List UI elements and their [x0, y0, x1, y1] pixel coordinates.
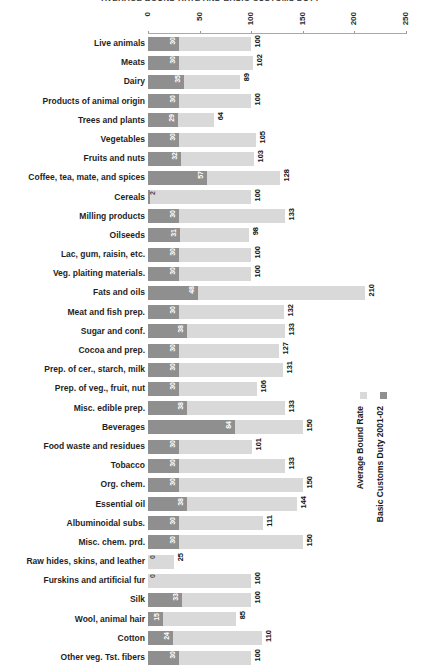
chart-row: Meat and fish prep.13230 [0, 303, 421, 322]
bar-group: 8935 [148, 72, 406, 91]
category-label: Albuminoidal subs. [67, 514, 145, 533]
value-label-basic-customs-duty: 30 [169, 95, 176, 103]
x-axis-tick-label: 0 [144, 12, 152, 16]
value-label-average-bound-rate: 131 [286, 361, 294, 374]
chart-row: Wool, animal hair8515 [0, 610, 421, 629]
legend-label: Basic Customs Duty 2001-02 [376, 406, 385, 522]
category-label: Fats and oils [93, 283, 145, 302]
category-label: Cocoa and prep. [78, 341, 145, 360]
value-label-basic-customs-duty: 30 [169, 37, 176, 45]
category-label: Furskins and artificial fur [43, 571, 145, 590]
value-label-basic-customs-duty: 38 [177, 498, 184, 506]
value-label-basic-customs-duty: 38 [177, 402, 184, 410]
bar-average-bound-rate [148, 574, 251, 588]
value-label-basic-customs-duty: 30 [169, 651, 176, 659]
value-label-average-bound-rate: 85 [239, 611, 247, 619]
value-label-basic-customs-duty: 48 [188, 286, 195, 294]
chart-row: Products of animal origin10030 [0, 92, 421, 111]
bar-group: 10030 [148, 92, 406, 111]
category-label: Tobacco [111, 456, 145, 475]
x-axis-tick-label: 150 [299, 12, 307, 25]
value-label-average-bound-rate: 150 [306, 476, 314, 489]
bar-group: 13130 [148, 360, 406, 379]
value-label-basic-customs-duty: 30 [169, 517, 176, 525]
value-label-basic-customs-duty: 0 [149, 555, 156, 559]
value-label-basic-customs-duty: 30 [169, 56, 176, 64]
bar-group: 10030 [148, 648, 406, 667]
value-label-average-bound-rate: 100 [254, 93, 262, 106]
category-label: Fruits and nuts [84, 149, 145, 168]
value-label-average-bound-rate: 133 [288, 208, 296, 221]
x-axis-tick-label: 50 [196, 12, 204, 21]
value-label-basic-customs-duty: 38 [177, 325, 184, 333]
value-label-basic-customs-duty: 31 [170, 229, 177, 237]
value-label-average-bound-rate: 100 [254, 649, 262, 662]
bar-group: 1002 [148, 188, 406, 207]
category-label: Misc. edible prep. [74, 399, 145, 418]
value-label-average-bound-rate: 106 [260, 380, 268, 393]
bar-group: 10530 [148, 130, 406, 149]
category-label: Silk [130, 590, 145, 609]
bar-group: 12730 [148, 341, 406, 360]
value-label-basic-customs-duty: 30 [169, 133, 176, 141]
category-label: Meat and fish prep. [68, 303, 145, 322]
value-label-basic-customs-duty: 29 [168, 114, 175, 122]
chart-row: Other veg. Tst. fibers10030 [0, 648, 421, 667]
bar-group: 10033 [148, 590, 406, 609]
value-label-average-bound-rate: 100 [254, 246, 262, 259]
chart-row: Lac, gum, raisin, etc.10030 [0, 245, 421, 264]
chart-row: Milling products13330 [0, 207, 421, 226]
value-label-basic-customs-duty: 32 [171, 152, 178, 160]
category-label: Oilseeds [110, 226, 145, 245]
bar-group: 10230 [148, 53, 406, 72]
bar-group: 13230 [148, 303, 406, 322]
chart-row: Fruits and nuts10332 [0, 149, 421, 168]
bar-average-bound-rate [148, 190, 251, 204]
chart-row: Sugar and conf.13338 [0, 322, 421, 341]
chart-row: Cereals1002 [0, 188, 421, 207]
value-label-average-bound-rate: 100 [254, 189, 262, 202]
category-label: Meats [121, 53, 145, 72]
bar-group: 10332 [148, 149, 406, 168]
category-label: Prep. of veg., fruit, nut [55, 379, 145, 398]
value-label-average-bound-rate: 100 [254, 572, 262, 585]
category-label: Dairy [124, 72, 145, 91]
category-label: Org. chem. [101, 475, 145, 494]
chart-row: Meats10230 [0, 53, 421, 72]
value-label-basic-customs-duty: 30 [169, 344, 176, 352]
category-label: Milling products [79, 207, 145, 226]
value-label-average-bound-rate: 210 [368, 284, 376, 297]
bar-group: 6429 [148, 111, 406, 130]
chart-row: Dairy8935 [0, 72, 421, 91]
category-label: Prep. of cer., starch, milk [44, 360, 145, 379]
value-label-average-bound-rate: 102 [256, 54, 264, 67]
value-label-average-bound-rate: 150 [306, 419, 314, 432]
value-label-basic-customs-duty: 33 [172, 593, 179, 601]
value-label-average-bound-rate: 89 [243, 73, 251, 81]
chart-legend: Average Bound RateBasic Customs Duty 200… [352, 392, 418, 582]
bar-group: 13338 [148, 322, 406, 341]
category-label: Sugar and conf. [81, 322, 145, 341]
value-label-basic-customs-duty: 30 [169, 440, 176, 448]
value-label-basic-customs-duty: 30 [169, 536, 176, 544]
value-label-average-bound-rate: 105 [259, 131, 267, 144]
legend-label: Average Bound Rate [356, 406, 365, 489]
value-label-basic-customs-duty: 57 [197, 171, 204, 179]
category-label: Cereals [114, 188, 145, 207]
legend-entry[interactable]: Basic Customs Duty 2001-02 [372, 392, 402, 582]
value-label-average-bound-rate: 133 [288, 323, 296, 336]
value-label-basic-customs-duty: 15 [153, 613, 160, 621]
chart-title: AVERAGE BOUND RATE AND BASIC CUSTOMS DUT… [0, 0, 421, 2]
chart-row: Cocoa and prep.12730 [0, 341, 421, 360]
value-label-basic-customs-duty: 84 [225, 421, 232, 429]
chart-row: Trees and plants6429 [0, 111, 421, 130]
value-label-basic-customs-duty: 24 [163, 632, 170, 640]
category-label: Vegetables [101, 130, 145, 149]
value-label-basic-customs-duty: 30 [169, 267, 176, 275]
bar-group: 10030 [148, 34, 406, 53]
x-axis-tick-label: 250 [402, 12, 410, 25]
chart-row: Veg. plaiting materials.10030 [0, 264, 421, 283]
category-label: Live animals [94, 34, 145, 53]
category-label: Cotton [118, 629, 145, 648]
value-label-average-bound-rate: 111 [266, 515, 274, 527]
